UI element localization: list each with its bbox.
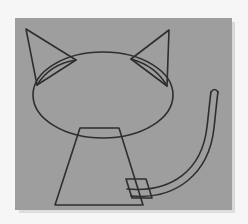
paper-panel (15, 18, 232, 210)
cat-line-drawing (0, 0, 248, 224)
drawing-canvas (0, 0, 248, 224)
paper-panel-shadow-right (232, 22, 235, 210)
paper-panel-shadow-bottom (19, 210, 235, 213)
